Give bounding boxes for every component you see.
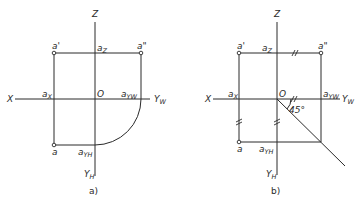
projection-diagrams: Z X YW YH O a' a" a aZ aX aYW aYH a) Z X… bbox=[0, 0, 355, 204]
diagram-a: Z X YW YH O a' a" a aZ aX aYW aYH a) bbox=[6, 9, 167, 196]
point-a-prime-b bbox=[237, 51, 241, 55]
label-yw-b: YW bbox=[342, 94, 355, 106]
point-a-double-prime-a bbox=[139, 51, 143, 55]
label-ayh-b: aYH bbox=[259, 144, 273, 156]
point-a-prime-a bbox=[52, 51, 56, 55]
diagram-b: Z X YW YH O 45° a' a" a aZ aX aYW aYH b) bbox=[204, 9, 355, 196]
label-a-b: a bbox=[237, 144, 243, 154]
label-yh-b: YH bbox=[266, 169, 277, 181]
label-z-b: Z bbox=[273, 9, 281, 19]
label-x-b: X bbox=[204, 94, 212, 104]
label-a-double-prime-a: a" bbox=[137, 41, 147, 51]
point-a-double-prime-b bbox=[319, 51, 323, 55]
label-origin-a: O bbox=[97, 89, 104, 99]
label-yh-a: YH bbox=[84, 169, 95, 181]
label-a-prime-b: a' bbox=[237, 41, 245, 51]
label-origin-b: O bbox=[279, 89, 286, 99]
caption-b: b) bbox=[271, 186, 280, 196]
label-ayh-a: aYH bbox=[78, 147, 92, 159]
label-a-a: a bbox=[52, 147, 58, 157]
label-a-prime-a: a' bbox=[52, 41, 60, 51]
caption-a: a) bbox=[89, 186, 98, 196]
label-angle-45: 45° bbox=[289, 105, 305, 115]
label-x-a: X bbox=[6, 94, 14, 104]
label-a-double-prime-b: a" bbox=[318, 41, 328, 51]
label-z-a: Z bbox=[91, 9, 99, 19]
label-yw-a: YW bbox=[154, 94, 167, 106]
quarter-arc bbox=[95, 99, 141, 145]
